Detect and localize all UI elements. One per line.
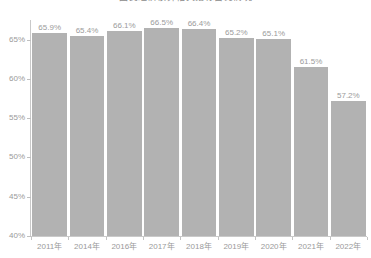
x-axis-tick — [106, 237, 107, 240]
bar[interactable] — [32, 33, 67, 236]
bar-fill — [107, 31, 142, 236]
bar[interactable] — [331, 101, 366, 236]
y-axis-tick — [27, 79, 31, 80]
x-axis-tick — [292, 237, 293, 240]
x-axis-tick — [255, 237, 256, 240]
y-axis-tick — [27, 157, 31, 158]
bar-fill — [182, 29, 217, 236]
bar-chart: 国民经济核算相关指标占比情况 40%45%50%55%60%65% 65.9%6… — [0, 0, 371, 258]
bar[interactable] — [70, 36, 105, 236]
bar-fill — [219, 38, 254, 236]
y-axis-tick-label: 65% — [0, 36, 25, 44]
y-axis-tick-label: 60% — [0, 75, 25, 83]
bar-fill — [256, 39, 291, 236]
bar-value-label: 65.9% — [30, 23, 70, 32]
bar[interactable] — [294, 67, 329, 236]
x-axis-tick — [68, 237, 69, 240]
bar[interactable] — [182, 29, 217, 236]
bar[interactable] — [107, 31, 142, 236]
bar-fill — [294, 67, 329, 236]
bar-value-label: 61.5% — [291, 57, 331, 66]
x-axis-tick — [367, 237, 368, 240]
bar-value-label: 57.2% — [328, 91, 368, 100]
y-axis-tick-label: 50% — [0, 153, 25, 161]
bar-value-label: 66.5% — [142, 18, 182, 27]
bar-value-label: 65.4% — [67, 26, 107, 35]
bar-fill — [32, 33, 67, 236]
y-axis-tick — [27, 118, 31, 119]
x-axis-category-label: 2022年 — [325, 242, 371, 252]
x-axis-tick — [143, 237, 144, 240]
bar-fill — [331, 101, 366, 236]
bar-value-label: 65.2% — [216, 28, 256, 37]
bar-fill — [70, 36, 105, 236]
x-axis-line — [30, 236, 367, 237]
bar[interactable] — [256, 39, 291, 236]
bar-value-label: 65.1% — [254, 29, 294, 38]
bar-fill — [144, 28, 179, 236]
x-axis-tick — [218, 237, 219, 240]
y-axis-tick — [27, 197, 31, 198]
bar-value-label: 66.4% — [179, 19, 219, 28]
y-axis-tick-label: 45% — [0, 193, 25, 201]
x-axis-tick — [330, 237, 331, 240]
chart-title: 国民经济核算相关指标占比情况 — [0, 0, 371, 3]
bar[interactable] — [219, 38, 254, 236]
bar-value-label: 66.1% — [104, 21, 144, 30]
x-axis-tick — [180, 237, 181, 240]
y-axis-line — [30, 20, 31, 237]
x-axis-tick — [31, 237, 32, 240]
y-axis-tick — [27, 40, 31, 41]
y-axis-tick-label: 40% — [0, 232, 25, 240]
bar[interactable] — [144, 28, 179, 236]
y-axis-tick-label: 55% — [0, 114, 25, 122]
